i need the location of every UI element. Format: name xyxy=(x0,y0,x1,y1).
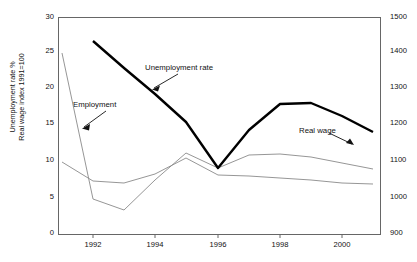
series-real-wage-line xyxy=(62,158,373,184)
series-employment-line xyxy=(62,53,373,210)
annotation-arrow-employment xyxy=(82,111,106,131)
annotation-arrow-real-wage xyxy=(329,133,354,145)
plot-area xyxy=(0,0,417,262)
annotation-arrow-unemployment xyxy=(152,74,178,92)
plot-frame xyxy=(59,18,381,235)
series-unemployment-rate-line xyxy=(93,41,373,168)
chart-container: Unemployment rate % Real wage index 1991… xyxy=(0,0,417,262)
x-axis-ticks xyxy=(93,235,342,239)
